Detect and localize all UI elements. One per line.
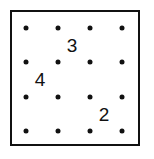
grid-dot-r1-c4[interactable] xyxy=(120,26,125,31)
puzzle-figure: 342 xyxy=(0,0,154,159)
grid-dot-r1-c2[interactable] xyxy=(56,26,61,31)
grid-border-box: 342 xyxy=(10,10,140,146)
grid-dot-r3-c4[interactable] xyxy=(120,95,125,100)
grid-dot-r2-c3[interactable] xyxy=(88,60,93,65)
grid-dot-r1-c1[interactable] xyxy=(24,26,29,31)
grid-dot-r4-c4[interactable] xyxy=(120,129,125,134)
grid-dot-r4-c3[interactable] xyxy=(88,129,93,134)
grid-dot-r2-c4[interactable] xyxy=(120,60,125,65)
cell-number-4: 4 xyxy=(35,70,46,89)
grid-dot-r3-c3[interactable] xyxy=(88,95,93,100)
grid-dot-r3-c1[interactable] xyxy=(24,95,29,100)
cell-number-3: 3 xyxy=(67,36,78,55)
grid-dot-r3-c2[interactable] xyxy=(56,95,61,100)
cell-number-2: 2 xyxy=(99,105,110,124)
grid-dot-r2-c2[interactable] xyxy=(56,60,61,65)
grid-dot-r4-c1[interactable] xyxy=(24,129,29,134)
grid-dot-r2-c1[interactable] xyxy=(24,60,29,65)
grid-dot-r4-c2[interactable] xyxy=(56,129,61,134)
grid-dot-r1-c3[interactable] xyxy=(88,26,93,31)
